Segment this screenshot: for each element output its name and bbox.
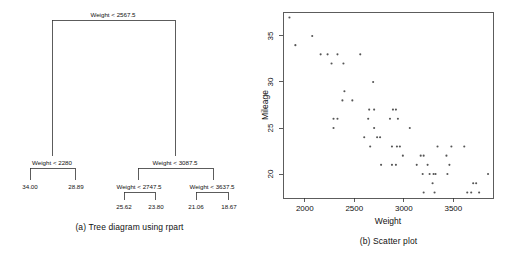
scatter-point — [332, 118, 334, 120]
scatter-point — [397, 118, 399, 120]
scatter-point — [327, 53, 329, 55]
scatter-point — [373, 109, 375, 111]
y-tick-label: 25 — [267, 123, 276, 132]
scatter-point — [463, 145, 465, 147]
scatter-point — [368, 109, 370, 111]
scatter-point — [351, 99, 353, 101]
scatter-point — [341, 99, 343, 101]
scatter-point — [433, 173, 435, 175]
tree-root-label: Weight < 2567.5 — [90, 11, 136, 18]
scatter-point — [423, 191, 425, 193]
tree-node-label-n1: Weight < 2280 — [32, 159, 73, 166]
scatter-plot-caption: (b) Scatter plot — [259, 236, 518, 246]
scatter-point — [392, 109, 394, 111]
scatter-plot-panel: 2000250030003500 20253035 Weight Mileage… — [259, 0, 518, 258]
plot-frame — [283, 12, 493, 198]
scatter-point — [436, 145, 438, 147]
scatter-data-points — [288, 16, 489, 193]
tree-leaf-l3: 25.62 — [116, 203, 132, 210]
x-tick-label: 2000 — [296, 204, 314, 213]
scatter-point — [395, 164, 397, 166]
tree-node-label-n2: Weight < 3087.5 — [152, 159, 198, 166]
scatter-point — [423, 155, 425, 157]
scatter-point — [429, 173, 431, 175]
tree-leaf-l1: 34.00 — [22, 183, 38, 190]
y-tick-label: 35 — [267, 31, 276, 40]
tree-leaf-l4: 23.80 — [148, 203, 164, 210]
scatter-point — [336, 118, 338, 120]
y-axis-label: Mileage — [260, 90, 270, 120]
scatter-point — [320, 53, 322, 55]
tree-node-label-n4: Weight < 3637.5 — [189, 183, 235, 190]
scatter-point — [391, 145, 393, 147]
scatter-point — [470, 191, 472, 193]
scatter-point — [330, 63, 332, 65]
scatter-point — [363, 136, 365, 138]
scatter-point — [372, 81, 374, 83]
scatter-point — [445, 155, 447, 157]
figure-container: Weight < 2567.5 Weight < 2280 Weight < 3… — [0, 0, 518, 258]
scatter-point — [379, 136, 381, 138]
scatter-point — [311, 35, 313, 37]
scatter-point — [409, 127, 411, 129]
scatter-point — [294, 44, 296, 46]
scatter-point — [389, 118, 391, 120]
scatter-point — [422, 173, 424, 175]
scatter-point — [427, 164, 429, 166]
tree-node-label-n3: Weight < 2747.5 — [116, 183, 162, 190]
y-axis-ticks — [279, 36, 283, 174]
tree-diagram-caption: (a) Tree diagram using rpart — [0, 222, 259, 232]
scatter-point — [472, 182, 474, 184]
scatter-point — [369, 145, 371, 147]
scatter-point — [450, 145, 452, 147]
scatter-point — [342, 63, 344, 65]
scatter-point — [448, 164, 450, 166]
scatter-point — [395, 109, 397, 111]
scatter-plot-svg: 2000250030003500 20253035 Weight Mileage — [259, 0, 518, 236]
scatter-point — [376, 136, 378, 138]
scatter-point — [434, 191, 436, 193]
scatter-point — [466, 191, 468, 193]
tree-leaf-l6: 18.67 — [221, 203, 237, 210]
scatter-point — [332, 127, 334, 129]
x-tick-label: 3500 — [444, 204, 462, 213]
scatter-point — [420, 155, 422, 157]
scatter-point — [336, 53, 338, 55]
tree-node-labels: Weight < 2567.5 Weight < 2280 Weight < 3… — [32, 11, 235, 190]
tree-leaf-l2: 28.89 — [68, 183, 84, 190]
y-tick-label: 30 — [267, 77, 276, 86]
scatter-point — [288, 16, 290, 18]
scatter-point — [399, 145, 401, 147]
x-axis-label: Weight — [375, 216, 402, 226]
scatter-point — [391, 164, 393, 166]
tree-leaf-l5: 21.06 — [188, 203, 204, 210]
scatter-point — [396, 145, 398, 147]
scatter-point — [367, 118, 369, 120]
scatter-point — [446, 173, 448, 175]
x-axis-tick-labels: 2000250030003500 — [296, 204, 463, 213]
scatter-point — [402, 155, 404, 157]
scatter-point — [487, 173, 489, 175]
scatter-point — [435, 173, 437, 175]
x-axis-ticks — [305, 198, 454, 202]
scatter-point — [380, 164, 382, 166]
x-tick-label: 2500 — [345, 204, 363, 213]
scatter-point — [432, 182, 434, 184]
scatter-point — [359, 53, 361, 55]
scatter-point — [373, 127, 375, 129]
scatter-point — [478, 191, 480, 193]
tree-diagram-svg: Weight < 2567.5 Weight < 2280 Weight < 3… — [0, 0, 259, 220]
tree-diagram-panel: Weight < 2567.5 Weight < 2280 Weight < 3… — [0, 0, 259, 258]
x-tick-label: 3000 — [395, 204, 413, 213]
scatter-point — [416, 164, 418, 166]
y-tick-label: 20 — [267, 169, 276, 178]
scatter-point — [343, 90, 345, 92]
tree-edges — [30, 20, 228, 200]
scatter-point — [475, 182, 477, 184]
